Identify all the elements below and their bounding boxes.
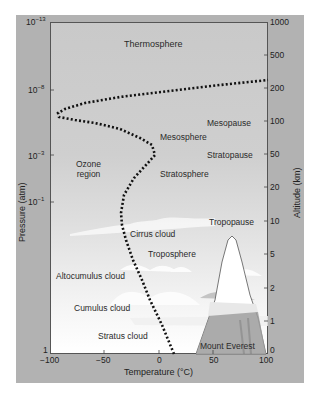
cumulus-cloud-label: Cumulus cloud [74, 304, 130, 313]
altitude-tick: 5 [270, 250, 275, 259]
ozone-label-line1: Ozone [76, 159, 101, 169]
stratosphere-label: Stratosphere [160, 170, 209, 179]
altitude-tick: 200 [270, 84, 284, 93]
mesosphere-label: Mesosphere [160, 133, 207, 142]
altitude-tick: 100 [270, 117, 284, 126]
altitude-tick: 2 [270, 284, 275, 293]
altocumulus-cloud-label: Altocumulus cloud [56, 272, 125, 281]
thermosphere-label: Thermosphere [124, 40, 183, 49]
pressure-tick-1e-8: 10−8 [28, 86, 44, 95]
troposphere-label: Troposphere [148, 250, 196, 259]
mount-everest-label: Mount Everest [200, 342, 255, 351]
tick-exponent: −1 [37, 196, 44, 202]
tick-exponent: −3 [37, 150, 44, 156]
stratus-cloud-label: Stratus cloud [98, 332, 148, 341]
temp-tick: 50 [209, 356, 218, 365]
altitude-tick: 0 [270, 346, 275, 355]
cirrus-cloud-label: Cirrus cloud [130, 230, 175, 239]
altitude-tick: 50 [270, 150, 279, 159]
pressure-tick-1e-3: 10−3 [28, 152, 44, 161]
altitude-tick: 1000 [270, 18, 289, 27]
ozone-label-line2: region [77, 169, 101, 179]
tick-exponent: −8 [37, 84, 44, 90]
temp-tick: 0 [157, 356, 162, 365]
temp-tick: −100 [40, 356, 59, 365]
altitude-tick: 10 [270, 217, 279, 226]
mesopause-label: Mesopause [207, 119, 251, 128]
pressure-axis-title: Pressure (atm) [17, 182, 27, 242]
altocumulus-cloud-icon [120, 265, 178, 272]
altitude-tick: 20 [270, 183, 279, 192]
tick-base: 1 [43, 345, 48, 355]
altitude-axis-title: Altitude (km) [292, 167, 302, 218]
temp-tick: 100 [259, 356, 273, 365]
pressure-tick-1e-1: 10−1 [28, 198, 44, 207]
altitude-tick: 1 [270, 317, 275, 326]
altitude-tick: 500 [270, 51, 284, 60]
tropopause-label: Tropopause [209, 218, 254, 227]
ozone-region-label: Ozoneregion [76, 160, 101, 180]
stratopause-label: Stratopause [207, 151, 253, 160]
temperature-axis-title: Temperature (°C) [124, 367, 193, 377]
tick-exponent: −13 [35, 16, 45, 22]
temp-tick: −50 [96, 356, 110, 365]
pressure-tick-1e-13: 10−13 [26, 18, 46, 27]
pressure-tick-1: 1 [43, 346, 48, 355]
